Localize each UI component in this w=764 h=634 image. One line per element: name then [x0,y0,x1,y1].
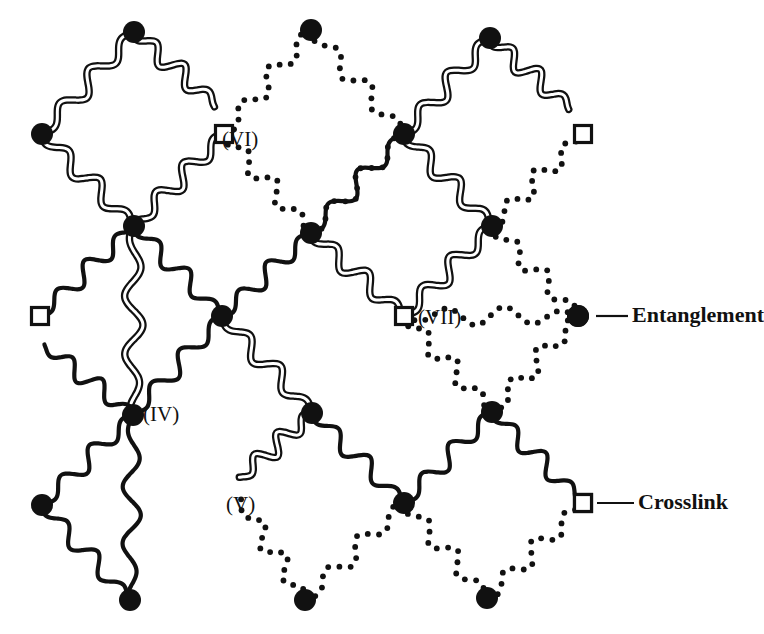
region-label-v: (V) [226,492,255,517]
crosslink-square-group [32,126,592,512]
entanglement-node [393,123,415,145]
entanglement-node [393,492,415,514]
entanglement-node [294,589,316,611]
entanglement-node [123,215,145,237]
legend-marker-crosslink [575,495,592,512]
region-label-iv: (IV) [143,402,179,427]
entanglement-node [123,21,145,43]
crosslink-square [396,308,413,325]
entanglement-node [476,587,498,609]
legend-marker-group [567,305,634,512]
legend-marker-entanglement [567,305,589,327]
entanglement-node [300,222,322,244]
entanglement-node [31,123,53,145]
single-line-chain-group [40,134,580,601]
entanglement-node [301,402,323,424]
entanglement-node [300,19,322,41]
crosslink-square [32,308,49,325]
entanglement-node [122,404,144,426]
entanglement-node [211,305,233,327]
entanglement-node-group [31,19,589,611]
entanglement-node [31,494,53,516]
entanglement-node [481,401,503,423]
legend-label-crosslink: Crosslink [638,489,728,515]
entanglement-node [481,215,503,237]
diagram-canvas: (VI) (VII) (IV) (V) Entanglement Crossli… [0,0,764,634]
region-label-vi: (VI) [222,127,258,152]
legend-label-entanglement: Entanglement [632,302,764,328]
crosslink-square [575,126,592,143]
region-label-vii: (VII) [418,305,461,330]
entanglement-node [119,589,141,611]
entanglement-node [479,27,501,49]
